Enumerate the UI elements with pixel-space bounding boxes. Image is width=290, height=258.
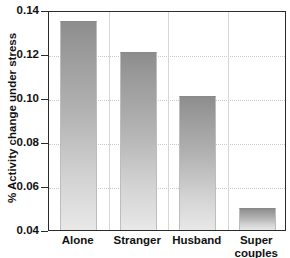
x-axis-tick-label-line: Super bbox=[227, 234, 287, 247]
x-axis-tick-label: Alone bbox=[48, 234, 108, 247]
bar-chart-figure: % Activity change under stress 0.040.060… bbox=[0, 0, 290, 258]
y-axis-tick bbox=[41, 231, 48, 232]
x-axis-tick-label: Stranger bbox=[108, 234, 168, 247]
y-axis-tick-label: 0.06 bbox=[0, 180, 39, 192]
y-axis-tick bbox=[41, 99, 48, 100]
y-axis-tick-label: 0.08 bbox=[0, 136, 39, 148]
y-axis-tick-label: 0.12 bbox=[0, 48, 39, 60]
category-separator bbox=[109, 12, 110, 230]
y-axis-tick bbox=[41, 11, 48, 12]
category-separator bbox=[228, 12, 229, 230]
y-axis-tick bbox=[41, 55, 48, 56]
y-axis-title: % Activity change under stress bbox=[6, 2, 18, 234]
x-axis-tick-label-line: Alone bbox=[48, 234, 108, 247]
bar-super-couples bbox=[239, 208, 276, 230]
plot-area bbox=[48, 11, 286, 231]
plot-inner bbox=[49, 12, 285, 230]
y-axis-tick bbox=[41, 187, 48, 188]
bar-stranger bbox=[120, 52, 157, 230]
bar-husband bbox=[179, 96, 216, 230]
y-axis-tick-label: 0.10 bbox=[0, 92, 39, 104]
category-separator bbox=[168, 12, 169, 230]
x-axis-tick-label-line: Husband bbox=[167, 234, 227, 247]
y-axis-tick-label: 0.14 bbox=[0, 4, 39, 16]
y-axis-tick bbox=[41, 143, 48, 144]
x-axis-tick-label: Husband bbox=[167, 234, 227, 247]
y-axis-tick-label: 0.04 bbox=[0, 224, 39, 236]
x-axis-tick-label-line: Stranger bbox=[108, 234, 168, 247]
bar-alone bbox=[60, 21, 97, 230]
x-axis-tick-label-line: couples bbox=[227, 247, 287, 258]
x-axis-tick-label: Supercouples bbox=[227, 234, 287, 258]
